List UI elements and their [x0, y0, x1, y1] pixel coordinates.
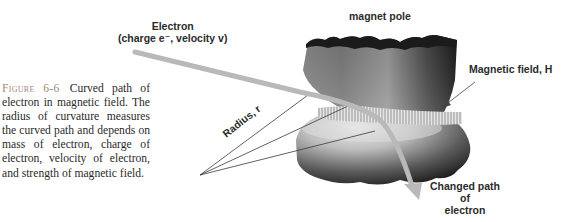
electron-label: Electron (charge e⁻, velocity v)	[118, 20, 227, 44]
upper-magnet-pole	[303, 35, 457, 118]
changed-path-label: Changed path of electron	[430, 180, 500, 216]
changed-path-line2: of	[430, 192, 500, 204]
electron-path-arrowhead	[404, 183, 422, 200]
changed-path-line1: Changed path	[430, 180, 500, 192]
magnet-pole-label: magnet pole	[349, 10, 411, 22]
changed-path-line3: electron	[430, 204, 500, 216]
electron-label-line2: (charge e⁻, velocity v)	[118, 32, 227, 44]
magnetic-field-label: Magnetic field, H	[469, 63, 552, 75]
electron-label-line1: Electron	[118, 20, 227, 32]
